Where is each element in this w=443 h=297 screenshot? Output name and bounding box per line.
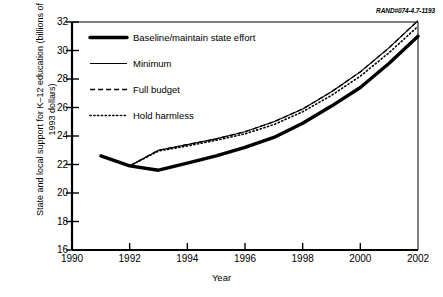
legend-sample-lines	[90, 38, 127, 116]
plot-canvas	[0, 0, 443, 297]
series-line	[101, 36, 418, 170]
series-line	[101, 26, 418, 166]
legend-label-minimum: Minimum	[133, 59, 172, 69]
axis-frame	[72, 22, 418, 250]
data-series-layer	[101, 21, 418, 171]
legend-label-hold-harmless: Hold harmless	[133, 111, 194, 121]
legend-label-baseline: Baseline/maintain state effort	[133, 33, 255, 43]
legend-label-full-budget: Full budget	[133, 85, 180, 95]
chart-figure: RAND#074-4.7-1193 State and local suppor…	[0, 0, 443, 297]
